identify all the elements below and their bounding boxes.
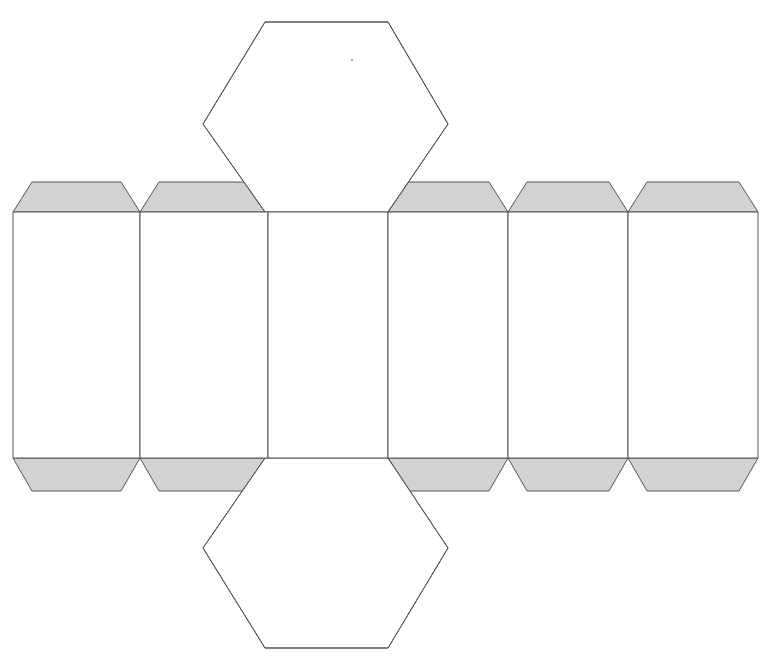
side-panel-1 [13,212,140,458]
print-speck-icon [351,59,353,61]
side-panel-3 [268,212,388,458]
glue-tab-bottom-6 [628,458,758,491]
side-panels-group [13,212,758,458]
side-panel-6 [628,212,758,458]
side-panel-5 [508,212,628,458]
glue-tab-bottom-1 [13,458,140,491]
glue-tab-top-6 [628,182,758,212]
hexagonal-prism-net: Net of a hexagonal prism with six rectan… [0,0,775,660]
glue-tab-top-4 [388,182,508,212]
glue-tab-bottom-5 [508,458,628,491]
glue-tab-top-1 [13,182,140,212]
glue-tab-top-5 [508,182,628,212]
side-panel-2 [140,212,268,458]
side-panel-4 [388,212,508,458]
